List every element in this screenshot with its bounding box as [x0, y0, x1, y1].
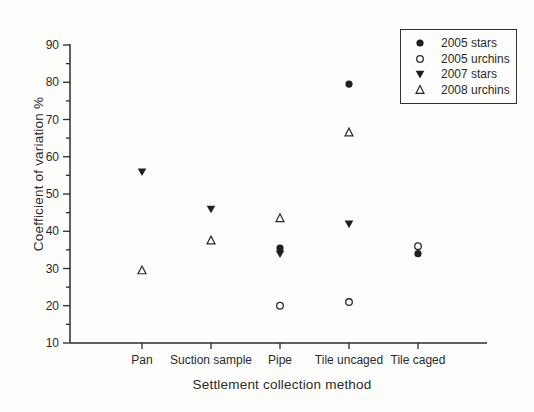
marker-2007-stars	[276, 250, 285, 258]
marker-2007-stars	[345, 221, 354, 229]
x-axis-title: Settlement collection method	[115, 377, 449, 392]
marker-2007-stars	[138, 168, 147, 176]
y-tick-label: 60	[46, 150, 60, 164]
filled-circle-icon	[413, 37, 427, 49]
filled-triangle-down-icon	[413, 68, 427, 80]
y-tick-label: 30	[46, 262, 60, 276]
y-tick-label: 20	[46, 299, 60, 313]
legend: 2005 stars2005 urchins2007 stars2008 urc…	[400, 29, 517, 104]
x-category-label: Tile caged	[391, 353, 446, 367]
marker-2005-stars	[414, 250, 421, 257]
marker-2008-urchins	[276, 214, 284, 222]
legend-label: 2008 urchins	[441, 84, 510, 96]
legend-label: 2005 stars	[441, 37, 497, 49]
open-circle-icon	[417, 55, 424, 62]
open-circle-icon	[413, 53, 427, 65]
x-category-label: Tile uncaged	[315, 353, 383, 367]
marker-2008-urchins	[207, 236, 215, 244]
y-tick-label: 50	[46, 187, 60, 201]
marker-2008-urchins	[345, 128, 353, 136]
scatter-plot-figure: 102030405060708090PanSuction samplePipeT…	[0, 0, 534, 412]
legend-label: 2005 urchins	[441, 53, 510, 65]
x-category-label: Pan	[131, 353, 152, 367]
y-axis-title: Coefficient of variation %	[31, 97, 46, 251]
legend-item: 2005 stars	[413, 37, 514, 49]
x-category-label: Pipe	[268, 353, 292, 367]
open-triangle-up-icon	[413, 84, 427, 96]
legend-item: 2008 urchins	[413, 84, 514, 96]
marker-2005-stars	[345, 81, 352, 88]
legend-label: 2007 stars	[441, 68, 497, 80]
marker-2008-urchins	[138, 266, 146, 274]
marker-2005-urchins	[346, 299, 353, 306]
open-triangle-up-icon	[416, 86, 424, 94]
x-category-label: Suction sample	[170, 353, 252, 367]
marker-2005-urchins	[415, 243, 422, 250]
filled-triangle-down-icon	[416, 71, 425, 79]
y-tick-label: 70	[46, 113, 60, 127]
marker-2007-stars	[207, 206, 216, 214]
y-tick-label: 90	[46, 38, 60, 52]
y-tick-label: 10	[46, 336, 60, 350]
marker-2005-urchins	[277, 302, 284, 309]
y-tick-label: 80	[46, 75, 60, 89]
legend-item: 2007 stars	[413, 68, 514, 80]
legend-item: 2005 urchins	[413, 53, 514, 65]
filled-circle-icon	[416, 39, 423, 46]
y-tick-label: 40	[46, 224, 60, 238]
